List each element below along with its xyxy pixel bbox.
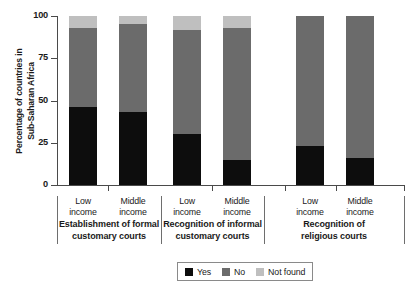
bar-segment-no [346,16,374,158]
group-title-line-1: Recognition of informal [161,219,264,231]
x-axis-tick-5 [404,186,405,191]
legend-label-not-found: Not found [268,267,305,277]
bar-segment-no [173,30,201,135]
bar-segment-not-found [69,16,97,28]
stacked-bar-chart: Percentage of countries in Sub-Saharan A… [0,0,420,290]
bar-segment-no [296,16,324,146]
group-title-line-1: Recognition of [264,219,404,231]
y-axis-tick-100 [51,16,57,17]
legend-item-yes: Yes [185,267,211,277]
x-axis-label-line-1: Middle [208,196,266,207]
legend-label-yes: Yes [197,267,211,277]
x-axis-label-formal-middle-income: Middle income [104,196,162,218]
group-title-line-2: customary courts [57,231,161,243]
x-axis-tick-3 [285,186,286,191]
bar-segment-yes [223,160,251,185]
x-axis-label-religious-middle-income: Middle income [331,196,389,218]
y-axis-tick-label-100: 100 [8,10,48,20]
legend-label-no: No [234,267,245,277]
bar-segment-yes [346,158,374,185]
bar-informal-middle-income [223,16,251,185]
y-axis-tick-label-50: 50 [8,95,48,105]
x-axis-label-line-2: income [331,207,389,218]
x-axis-label-line-2: income [208,207,266,218]
y-axis-line [57,16,58,186]
x-axis-tick-2 [212,186,213,191]
bar-segment-yes [173,134,201,185]
y-axis-tick-0 [51,185,57,186]
bar-segment-yes [296,146,324,185]
y-axis-tick-50 [51,101,57,102]
x-axis-label-line-1: Middle [104,196,162,207]
bar-segment-no [69,28,97,107]
y-axis-tick-label-75: 75 [8,52,48,62]
bar-religious-low-income [296,16,324,185]
y-axis-tick-25 [51,143,57,144]
group-title-line-2: religious courts [264,231,404,243]
legend-swatch-not-found-icon [256,268,264,276]
chart-legend: Yes No Not found [177,262,313,281]
group-separator-right [404,196,405,244]
y-axis-tick-75 [51,58,57,59]
group-title-line-2: customary courts [161,231,264,243]
bar-formal-low-income [69,16,97,185]
bar-segment-not-found [223,16,251,28]
x-axis-label-line-1: Middle [331,196,389,207]
y-axis-tick-label-0: 0 [8,179,48,189]
bar-segment-yes [69,107,97,185]
bar-segment-yes [119,112,147,185]
x-axis-tick-1 [108,186,109,191]
legend-item-not-found: Not found [256,267,305,277]
group-title-formal-customary-courts: Establishment of formal customary courts [57,219,161,242]
group-title-informal-customary-courts: Recognition of informal customary courts [161,219,264,242]
bar-segment-not-found [173,16,201,30]
bar-informal-low-income [173,16,201,185]
legend-item-no: No [222,267,245,277]
group-title-line-1: Establishment of formal [57,219,161,231]
x-axis-label-line-2: income [104,207,162,218]
bar-segment-no [223,28,251,160]
x-axis-line [57,185,405,186]
x-axis-label-informal-middle-income: Middle income [208,196,266,218]
bar-religious-middle-income [346,16,374,185]
group-title-religious-courts: Recognition of religious courts [264,219,404,242]
x-axis-tick-4 [336,186,337,191]
y-axis-tick-label-25: 25 [8,137,48,147]
bar-segment-not-found [119,16,147,24]
bar-formal-middle-income [119,16,147,185]
legend-swatch-yes-icon [185,268,193,276]
bar-segment-no [119,24,147,112]
legend-swatch-no-icon [222,268,230,276]
